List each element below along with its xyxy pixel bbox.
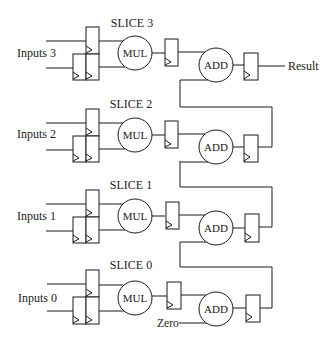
zero-label: Zero <box>157 317 179 329</box>
slice-title: SLICE 0 <box>110 258 152 272</box>
product-register <box>167 282 181 309</box>
dsp-slice-cascade-diagram: SLICE 3 Inputs 3 MUL ADD Result SLICE 2 … <box>0 0 333 347</box>
slice-title: SLICE 3 <box>111 16 153 30</box>
mul-label: MUL <box>123 129 148 141</box>
slice-title: SLICE 2 <box>110 97 152 111</box>
inputs-label: Inputs 1 <box>17 209 56 223</box>
mul-label: MUL <box>123 47 148 59</box>
result-label: Result <box>288 59 319 73</box>
add-label: ADD <box>204 59 228 71</box>
output-register <box>245 214 259 242</box>
output-register <box>244 135 258 162</box>
mul-label: MUL <box>123 292 148 304</box>
inputs-label: Inputs 2 <box>17 127 56 141</box>
add-label: ADD <box>204 141 228 153</box>
inputs-label: Inputs 3 <box>17 46 56 60</box>
slice-title: SLICE 1 <box>110 178 152 192</box>
add-label: ADD <box>204 303 228 315</box>
inputs-label: Inputs 0 <box>18 291 57 305</box>
add-label: ADD <box>204 222 228 234</box>
mul-label: MUL <box>123 210 148 222</box>
output-register <box>244 53 258 80</box>
output-register <box>246 295 260 322</box>
